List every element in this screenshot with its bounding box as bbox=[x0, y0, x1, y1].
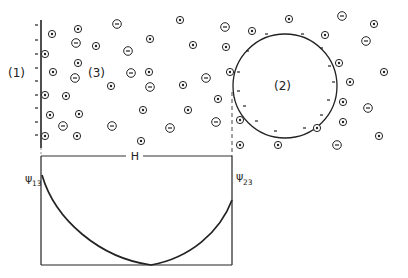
cation-icon bbox=[139, 106, 146, 113]
label-region-2: (2) bbox=[274, 79, 291, 93]
cation-icon bbox=[321, 31, 328, 38]
cation-icon bbox=[145, 68, 152, 75]
anion-icon bbox=[72, 39, 81, 48]
cation-icon bbox=[92, 42, 99, 49]
anion-icon bbox=[59, 122, 68, 131]
cation-icon bbox=[313, 124, 320, 131]
anion-icon bbox=[166, 124, 175, 133]
anion-icon bbox=[333, 141, 342, 150]
cation-icon bbox=[48, 30, 55, 37]
cation-icon bbox=[73, 132, 80, 139]
cation-icon bbox=[346, 78, 353, 85]
cation-icon bbox=[74, 25, 81, 32]
anion-icon bbox=[202, 74, 211, 83]
cation-icon bbox=[62, 92, 69, 99]
anion-icon bbox=[108, 122, 117, 131]
svg-text:23: 23 bbox=[243, 178, 253, 187]
cation-icon bbox=[236, 116, 243, 123]
cation-icon bbox=[137, 137, 144, 144]
cation-icon bbox=[222, 43, 229, 50]
anion-icon bbox=[146, 83, 155, 92]
cation-icon bbox=[41, 91, 48, 98]
cation-icon bbox=[339, 118, 346, 125]
label-region-3: (3) bbox=[88, 66, 105, 80]
cation-icon bbox=[189, 41, 196, 48]
cation-icon bbox=[179, 81, 186, 88]
cation-icon bbox=[46, 111, 53, 118]
cation-icon bbox=[176, 16, 183, 23]
anion-icon bbox=[127, 69, 136, 78]
anion-icon bbox=[362, 37, 371, 46]
anion-icon bbox=[338, 12, 347, 21]
label-region-1: (1) bbox=[8, 66, 25, 80]
anion-icon bbox=[71, 74, 80, 83]
cation-icon bbox=[49, 68, 56, 75]
anion-icon bbox=[221, 23, 230, 32]
anion-icon bbox=[364, 104, 373, 113]
cation-icon bbox=[226, 68, 233, 75]
cation-icon bbox=[146, 35, 153, 42]
cation-icon bbox=[184, 106, 191, 113]
cation-icon bbox=[107, 82, 114, 89]
cation-icon bbox=[74, 59, 81, 66]
cation-icon bbox=[41, 50, 48, 57]
anion-icon bbox=[113, 20, 122, 29]
cation-icon bbox=[370, 20, 377, 27]
psi-13-label: ψ 13 bbox=[25, 172, 42, 188]
cation-icon bbox=[214, 95, 221, 102]
psi-23-label: ψ 23 bbox=[236, 170, 253, 187]
ions-layer bbox=[41, 12, 387, 150]
cation-icon bbox=[380, 68, 387, 75]
surface-1-negative-charges bbox=[35, 25, 38, 135]
cation-icon bbox=[285, 15, 292, 22]
cation-icon bbox=[41, 132, 48, 139]
svg-text:13: 13 bbox=[32, 179, 42, 188]
anion-icon bbox=[212, 118, 221, 127]
potential-profile-curve bbox=[42, 175, 232, 265]
cation-icon bbox=[75, 110, 82, 117]
anion-icon bbox=[124, 47, 133, 56]
cation-icon bbox=[339, 98, 346, 105]
separation-distance-label: H bbox=[131, 150, 139, 163]
cation-icon bbox=[274, 141, 281, 148]
cation-icon bbox=[248, 27, 255, 34]
cation-icon bbox=[375, 132, 382, 139]
cation-icon bbox=[335, 59, 342, 66]
double-layer-diagram: (1) (3) (2) H ψ 13 ψ 23 bbox=[0, 0, 408, 278]
cation-icon bbox=[236, 141, 243, 148]
